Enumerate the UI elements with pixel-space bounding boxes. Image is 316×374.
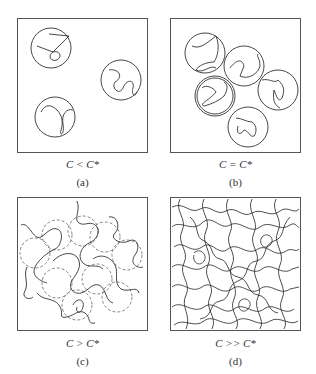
frame: [18, 19, 148, 153]
polymer-chain: [24, 267, 33, 299]
polymer-chain: [202, 82, 227, 106]
polymer-chain: [41, 106, 73, 134]
polymer-chain: [174, 319, 298, 325]
polymer-chain: [109, 70, 137, 95]
frame: [171, 19, 301, 153]
panel-tag: (a): [17, 176, 148, 188]
polymer-chain: [239, 299, 250, 311]
polymer-chain: [21, 224, 61, 283]
concentrated-entangled-illustration: [170, 197, 301, 331]
semidilute-coils-illustration: [17, 197, 148, 331]
panel-tag: (b): [170, 176, 301, 188]
blob-circle: [68, 216, 98, 246]
panel-tag: (d): [170, 355, 301, 367]
panel-d: C >> C* (d): [170, 197, 301, 367]
polymer-chain: [109, 217, 143, 268]
polymer-chain: [202, 199, 213, 329]
polymer-chain: [172, 205, 299, 214]
polymer-chain: [37, 293, 95, 323]
polymer-chain: [262, 80, 284, 108]
coil-circle: [35, 97, 75, 137]
polymer-chain: [192, 36, 218, 71]
coil-circle: [195, 76, 235, 116]
blob-circle: [20, 238, 50, 268]
coil-circle: [101, 60, 141, 100]
coil-circle: [228, 107, 268, 147]
condition-label: C < C*: [17, 158, 148, 170]
polymer-chain: [172, 220, 299, 229]
blob-circle: [42, 220, 72, 250]
blob-circle: [102, 282, 132, 312]
condition-label: C = C*: [170, 158, 301, 170]
condition-label: C > C*: [17, 337, 148, 349]
polymer-chain: [230, 54, 260, 77]
coil-circle: [197, 78, 233, 114]
polymer-chain: [178, 199, 187, 329]
polymer-chain: [73, 300, 83, 312]
polymer-chain: [93, 256, 139, 293]
polymer-chain: [261, 235, 272, 247]
blob-circle: [82, 264, 112, 294]
polymer-chain: [194, 251, 205, 264]
panel-tag: (c): [17, 355, 148, 367]
polymer-chain: [250, 199, 261, 329]
overlap-threshold-coils-illustration: [170, 18, 301, 153]
coil-circle: [258, 70, 298, 110]
panel-a: C < C* (a): [17, 18, 148, 188]
polymer-chain: [53, 254, 113, 303]
panel-c: C > C* (c): [17, 197, 148, 367]
dilute-coils-illustration: [17, 18, 148, 153]
coil-circle: [185, 33, 225, 73]
polymer-chain: [77, 201, 103, 269]
polymer-chain: [236, 118, 256, 136]
blob-circle: [90, 222, 120, 252]
condition-label: C >> C*: [170, 337, 301, 349]
polymer-chain: [226, 199, 237, 329]
panel-b: C = C* (b): [170, 18, 301, 188]
polymer-chain: [37, 34, 69, 60]
